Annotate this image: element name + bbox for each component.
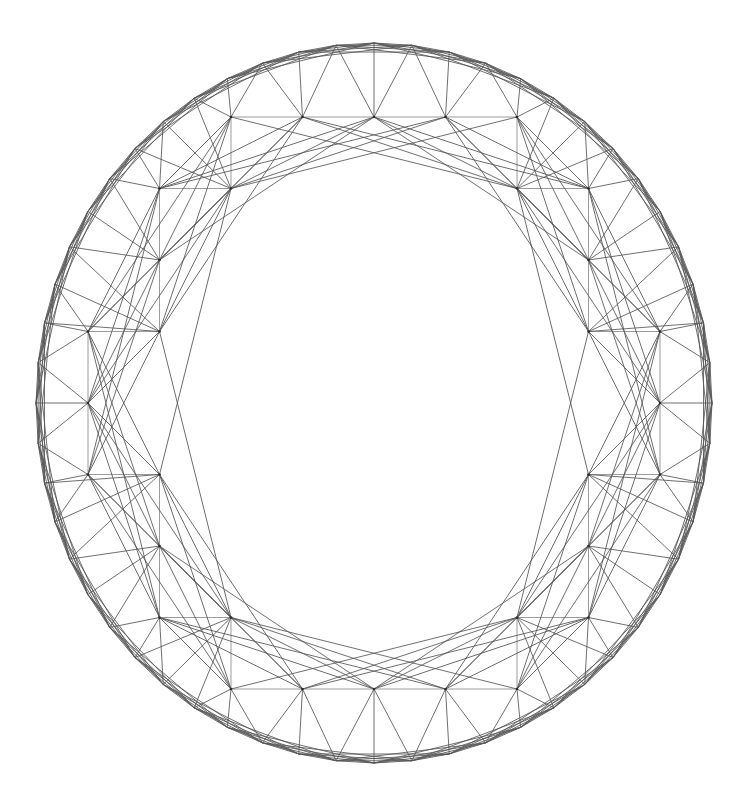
lattice-vertex [587,259,590,262]
figure-canvas [0,0,752,808]
lattice-vertex [230,688,233,691]
lattice-vertex [158,473,161,476]
lattice-vertex [587,545,590,548]
lattice-vertex [444,688,447,691]
lattice-vertex [659,330,662,333]
lattice-vertex [587,187,590,190]
lattice-vertex [301,688,304,691]
lattice-vertex [373,688,376,691]
lattice-vertex [158,330,161,333]
lattice-vertex [230,187,233,190]
lattice-vertex [87,330,90,333]
lattice-vertex [230,616,233,619]
lattice-vertex [587,330,590,333]
lattice-vertex [87,402,90,405]
lattice-vertex [87,473,90,476]
lattice-vertex [230,116,233,119]
lattice-vertex [444,116,447,119]
lattice-vertex [516,187,519,190]
lattice-vertex [659,402,662,405]
lattice-vertex [158,545,161,548]
lattice-vertex [158,616,161,619]
lattice-vertex [587,473,590,476]
lattice-diagram [0,0,752,808]
lattice-vertex [659,473,662,476]
lattice-vertex [301,116,304,119]
lattice-vertex [516,116,519,119]
lattice-vertex [373,116,376,119]
lattice-vertex [516,616,519,619]
lattice-vertex [516,688,519,691]
lattice-vertex [158,259,161,262]
lattice-vertex [158,187,161,190]
background-rect [0,0,752,808]
lattice-vertex [587,616,590,619]
